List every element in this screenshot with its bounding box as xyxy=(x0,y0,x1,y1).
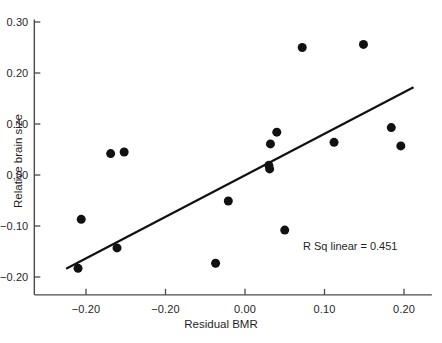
data-point xyxy=(298,43,307,52)
data-point xyxy=(265,164,274,173)
x-tick-label: 0.00 xyxy=(234,303,256,315)
data-point xyxy=(272,128,281,137)
data-point xyxy=(330,138,339,147)
data-point xyxy=(396,141,405,150)
x-tick-label: −0.20 xyxy=(72,303,100,315)
data-point xyxy=(211,259,220,268)
scatter-plot-figure: −0.20−0.100.000.100.200.30 −0.20−0.200.0… xyxy=(0,0,442,343)
y-tick-label: −0.20 xyxy=(0,271,28,283)
x-tick-label: −0.20 xyxy=(151,303,179,315)
data-point xyxy=(120,148,129,157)
x-axis-title: Residual BMR xyxy=(0,318,442,330)
data-point xyxy=(387,123,396,132)
data-point xyxy=(224,197,233,206)
x-tick-label: 0.20 xyxy=(393,303,415,315)
x-tick-label: 0.10 xyxy=(314,303,336,315)
data-point xyxy=(77,215,86,224)
data-point xyxy=(280,226,289,235)
plot-canvas xyxy=(0,0,442,343)
y-tick-label: 0.20 xyxy=(0,67,28,79)
r-squared-annotation: R Sq linear = 0.451 xyxy=(303,240,397,252)
data-point xyxy=(106,149,115,158)
data-point xyxy=(74,264,83,273)
data-point xyxy=(359,40,368,49)
y-tick-label: 0.30 xyxy=(0,16,28,28)
axis-ticks xyxy=(34,22,404,295)
y-axis-title: Relative brain size xyxy=(12,81,24,241)
data-point xyxy=(266,139,275,148)
data-point xyxy=(113,243,122,252)
